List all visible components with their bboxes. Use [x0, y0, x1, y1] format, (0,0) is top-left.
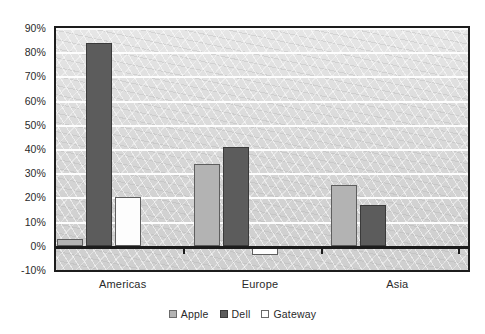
legend-label: Gateway [273, 308, 316, 320]
y-axis-tick-label: 20% [25, 192, 46, 202]
apple-swatch [169, 310, 177, 318]
gridline [56, 125, 468, 127]
gridline [56, 149, 468, 151]
legend-item-gateway[interactable]: Gateway [261, 308, 316, 320]
x-axis-tick-mark [458, 249, 460, 254]
bar-apple-asia [331, 185, 357, 246]
gridline [56, 173, 468, 175]
gridline [56, 52, 468, 54]
y-axis-tick-label: 0% [31, 241, 46, 251]
bar-dell-europe [223, 147, 249, 246]
dell-swatch [220, 310, 228, 318]
legend-label: Apple [181, 308, 209, 320]
y-axis-tick-label: 50% [25, 120, 46, 130]
x-axis-label-europe: Europe [191, 278, 328, 290]
x-axis-tick-mark [321, 249, 323, 254]
y-axis-tick-label: 80% [25, 47, 46, 57]
bar-apple-americas [57, 239, 83, 246]
y-axis-tick-label: 60% [25, 96, 46, 106]
y-axis-tick-label: 30% [25, 168, 46, 178]
gridline [56, 101, 468, 103]
y-axis: 90%80%70%60%50%40%30%20%10%0%-10% [0, 0, 50, 280]
x-axis-category-labels: AmericasEuropeAsia [54, 278, 470, 298]
legend-label: Dell [232, 308, 251, 320]
bar-apple-europe [194, 164, 220, 246]
x-axis-label-americas: Americas [54, 278, 191, 290]
chart-legend: AppleDellGateway [0, 308, 485, 320]
bar-dell-asia [360, 205, 386, 246]
y-axis-tick-label: 70% [25, 71, 46, 81]
legend-item-apple[interactable]: Apple [169, 308, 209, 320]
zero-line [56, 246, 468, 249]
y-axis-tick-label: 90% [25, 23, 46, 33]
y-axis-tick-label: 10% [25, 217, 46, 227]
y-axis-tick-label: 40% [25, 144, 46, 154]
gridline [56, 76, 468, 78]
legend-item-dell[interactable]: Dell [220, 308, 251, 320]
bar-dell-americas [86, 43, 112, 246]
x-axis-tick-mark [183, 249, 185, 254]
x-axis-label-asia: Asia [329, 278, 466, 290]
gridline [56, 28, 468, 30]
bar-chart: 90%80%70%60%50%40%30%20%10%0%-10% Americ… [0, 0, 485, 334]
gateway-swatch [261, 310, 269, 318]
y-axis-tick-label: -10% [21, 265, 46, 275]
bar-gateway-americas [115, 197, 141, 245]
plot-area [54, 26, 470, 272]
